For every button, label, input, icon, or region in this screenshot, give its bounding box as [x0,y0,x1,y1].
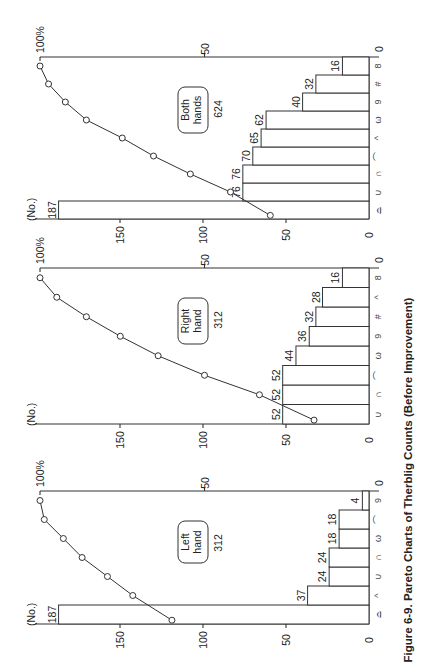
cumulative-point [187,171,193,177]
therblig-symbol: 9 [373,99,383,104]
series-label: Both [179,99,191,121]
cumulative-point [104,574,110,580]
cumulative-point [37,63,43,69]
cumulative-point [256,392,262,398]
therblig-symbol: ∩ [373,392,383,398]
cumulative-point [62,99,68,105]
cumulative-point [155,353,161,359]
cumulative-point [46,81,52,87]
bar-value-label: 24 [316,552,328,564]
therblig-symbol: ⌒ [373,371,383,380]
therblig-symbol: ^ [373,135,383,140]
percent-zero-label: 0 [373,257,385,263]
therblig-symbol: ^ [373,593,383,598]
pareto-bar [253,147,369,165]
pareto-bar [59,605,369,624]
cumulative-point [130,593,136,599]
therblig-symbol: 9 [373,498,383,503]
pareto-bar [308,586,369,605]
cumulative-point [37,275,43,281]
cumulative-point [227,189,233,195]
count-tick-label: 100 [197,631,209,649]
series-label: Left [179,533,191,551]
bar-value-label: 36 [296,330,308,342]
cumulative-point [119,135,125,141]
bar-value-label: 187 [46,201,58,219]
bar-value-label: 16 [329,60,341,72]
therblig-symbol: ^ [373,294,383,299]
pareto-bar [316,307,369,327]
count-axis-label: (No.) [25,403,37,426]
bar-value-label: 18 [326,514,338,526]
count-tick-label: 100 [197,226,209,244]
bar-value-label: 187 [46,606,58,624]
therblig-symbol: ∪ [373,189,383,196]
count-axis-label: (No.) [25,198,37,221]
pareto-bar [283,405,369,425]
therblig-symbol: # [373,314,383,319]
bar-value-label: 52 [270,389,282,401]
therblig-symbol: 9 [373,334,383,339]
pareto-bar [243,183,369,201]
bar-value-label: 32 [303,78,315,90]
pareto-bar [309,327,369,347]
cumulative-point [37,498,43,504]
count-tick-label: 50 [280,229,292,241]
count-axis-label: (No.) [25,603,37,626]
pareto-bar [329,548,369,567]
percent-tick-label: 50 [199,477,211,489]
cumulative-point [41,517,47,523]
bar-value-label: 16 [329,272,341,284]
cumulative-point [311,417,317,423]
percent-100-label: 100% [34,237,46,264]
count-tick-label: 150 [114,431,126,449]
pareto-bar [59,201,369,219]
percent-100-label: 100% [34,26,46,53]
pareto-bar [339,529,369,548]
count-tick-label: 0 [363,437,375,443]
pareto-figure: 050100150(No.)50100%0187⌓37^24∪24∩18ω18⌒… [0,0,428,672]
therblig-symbol: ⌒ [373,152,383,161]
series-label: hands [191,96,203,125]
count-tick-label: 0 [363,637,375,643]
percent-zero-label: 0 [373,46,385,52]
cumulative-point [83,117,89,123]
bar-value-label: 52 [270,408,282,420]
percent-100-label: 100% [34,460,46,487]
percent-zero-label: 0 [373,480,385,486]
pareto-bar [362,491,369,510]
pareto-bar [342,57,369,75]
cumulative-point [202,372,208,378]
pareto-bar [329,567,369,586]
pareto-bar [266,111,369,129]
series-label: hand [191,530,203,554]
therblig-symbol: ∩ [373,554,383,560]
pareto-bar [342,268,369,288]
cumulative-point [117,333,123,339]
pareto-bar [323,288,369,308]
pareto-bar [296,346,369,366]
cumulative-point [54,294,60,300]
therblig-symbol: ω [373,116,383,123]
cumulative-point [169,617,175,623]
therblig-symbol: ⌓ [373,207,383,214]
count-tick-label: 50 [280,634,292,646]
cumulative-line [40,501,172,621]
bar-value-label: 24 [316,571,328,583]
pareto-charts-svg: 050100150(No.)50100%0187⌓37^24∪24∩18ω18⌒… [0,0,428,672]
pareto-bar [339,510,369,529]
bar-value-label: 65 [248,132,260,144]
therblig-symbol: ⌓ [373,611,383,618]
therblig-symbol: 8 [373,275,383,280]
count-tick-label: 150 [114,631,126,649]
bar-value-label: 70 [240,150,252,162]
percent-tick-label: 50 [199,254,211,266]
series-total: 312 [212,534,224,552]
bar-value-label: 37 [295,590,307,602]
pareto-bar [303,93,369,111]
therblig-symbol: ∩ [373,171,383,177]
bar-value-label: 52 [270,369,282,381]
series-label: Right [179,309,191,334]
cumulative-point [60,536,66,542]
figure-caption: Figure 6-9. Pareto Charts of Therblig Co… [402,297,414,662]
